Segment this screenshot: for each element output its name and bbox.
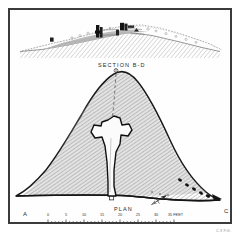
scale-tick-30: 30 [154,213,158,217]
scale-tick-0: 0 [47,213,49,217]
survey-drawing [10,10,230,222]
section-label: SECTION B-D [98,62,146,68]
plan-entrance-stone [110,197,114,200]
corner-label-c: C [224,208,229,214]
scale-tick-10: 10 [82,213,86,217]
scale-tick-15: 15 [100,213,104,217]
scale-tick-20: 20 [118,213,122,217]
scale-end-label: 35 FEET [168,213,183,217]
scale-bar [48,220,176,223]
scale-tick-5: 5 [65,213,67,217]
plan-label: PLAN [114,206,133,212]
section-ground-hatching [20,32,220,58]
scale-tick-25: 25 [136,213,140,217]
plate-frame: SECTION B-D PLAN A C C.3 P.G. 0 5 10 15 … [8,8,232,224]
credit-signature: C.3 P.G. [216,229,231,233]
plan-apex-marker [114,69,118,73]
plate: SECTION B-D PLAN A C C.3 P.G. 0 5 10 15 … [0,0,240,238]
section-drawing-group [20,23,222,58]
section-stone-marker-left [50,38,54,42]
corner-label-a: A [23,211,28,217]
plan-drawing-group [16,69,222,201]
